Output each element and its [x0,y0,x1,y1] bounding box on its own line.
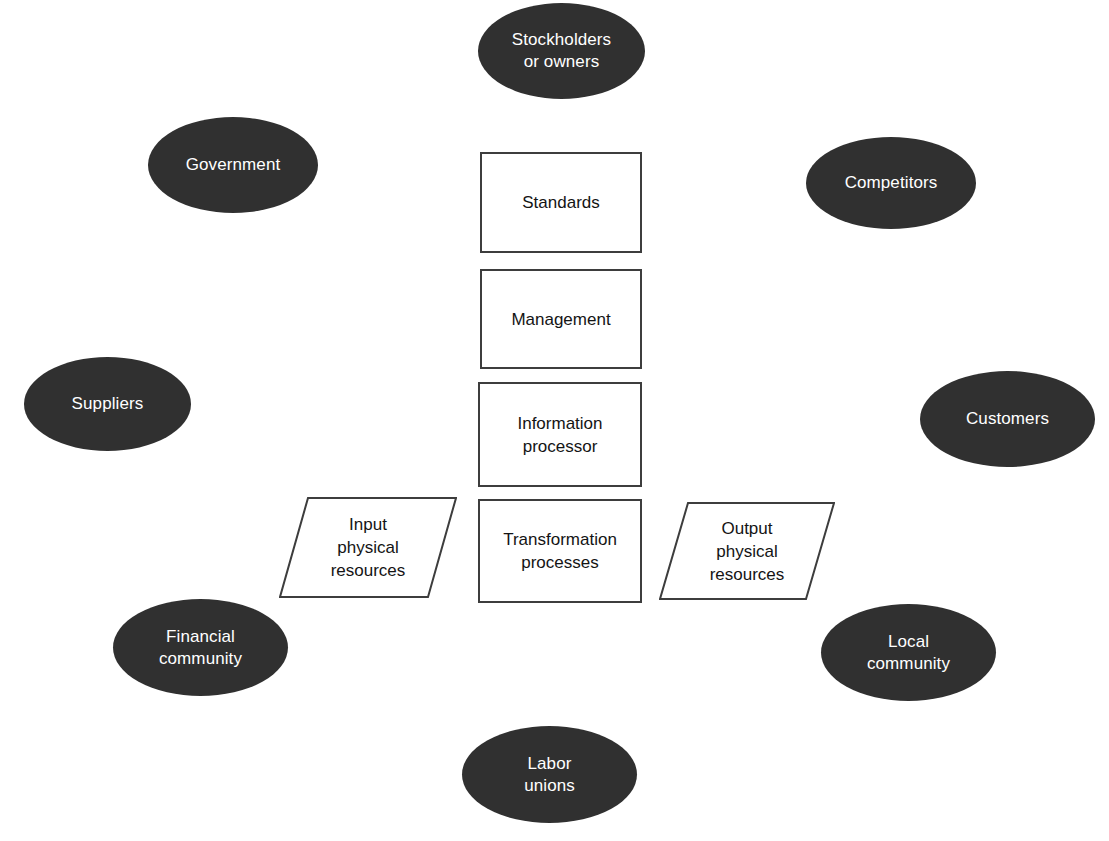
system-node-label: Standards [522,191,600,214]
system-node-label: Information processor [517,412,602,458]
environment-node-label: Stockholders or owners [512,29,611,73]
flow-node-label: Input physical resources [279,497,457,598]
environment-node-label: Suppliers [72,393,144,415]
environment-node-label: Financial community [159,626,242,670]
system-node-label: Management [511,308,610,331]
system-node-information-processor[interactable]: Information processor [478,382,642,487]
diagram-canvas: Stockholders or ownersGovernmentCompetit… [0,0,1109,841]
system-node-management[interactable]: Management [480,269,642,369]
system-node-transformation-processes[interactable]: Transformation processes [478,499,642,603]
environment-node-government[interactable]: Government [148,117,318,213]
environment-node-label: Local community [867,631,950,675]
system-node-standards[interactable]: Standards [480,152,642,253]
system-node-label: Transformation processes [503,528,617,574]
environment-node-labor-unions[interactable]: Labor unions [462,726,637,823]
environment-node-suppliers[interactable]: Suppliers [24,357,191,451]
environment-node-label: Customers [966,408,1049,430]
environment-node-stockholders-or-owners[interactable]: Stockholders or owners [478,3,645,99]
environment-node-local-community[interactable]: Local community [821,604,996,701]
environment-node-label: Government [186,154,281,176]
environment-node-financial-community[interactable]: Financial community [113,599,288,696]
environment-node-customers[interactable]: Customers [920,371,1095,467]
environment-node-competitors[interactable]: Competitors [806,137,976,229]
environment-node-label: Competitors [845,172,938,194]
flow-node-output-physical-resources[interactable]: Output physical resources [659,502,835,600]
environment-node-label: Labor unions [524,753,575,797]
flow-node-input-physical-resources[interactable]: Input physical resources [279,497,457,598]
flow-node-label: Output physical resources [659,502,835,600]
